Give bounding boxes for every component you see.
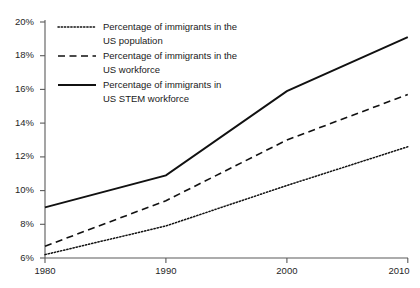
x-tick-label-2000: 2000 (276, 265, 297, 276)
x-axis-ticks (45, 258, 408, 263)
legend-label-us-workforce-line2: US workforce (103, 64, 160, 75)
legend-label-us-stem-workforce-line2: US STEM workforce (103, 93, 189, 104)
chart-canvas: 20% 18% 16% 14% 12% 10% 8% 6% (0, 0, 420, 288)
y-tick-label-20: 20% (15, 16, 35, 27)
y-tick-label-12: 12% (15, 150, 35, 161)
series-line-us-workforce (45, 94, 408, 246)
series-lines (45, 37, 408, 254)
legend-label-us-population-line2: US population (103, 35, 163, 46)
y-tick-label-10: 10% (15, 184, 35, 195)
legend-label-us-population-line1: Percentage of immigrants in the (103, 21, 237, 32)
legend-label-us-stem-workforce-line1: Percentage of immigrants in (103, 79, 221, 90)
x-tick-label-2010: 2010 (388, 265, 409, 276)
line-chart: 20% 18% 16% 14% 12% 10% 8% 6% (0, 0, 420, 288)
series-line-us-stem-workforce (45, 37, 408, 207)
y-tick-label-6: 6% (20, 252, 34, 263)
y-axis-ticks (40, 22, 45, 258)
y-tick-label-18: 18% (15, 49, 35, 60)
legend-label-us-workforce-line1: Percentage of immigrants in the (103, 50, 237, 61)
x-axis-tick-labels: 1980 1990 2000 2010 (34, 265, 409, 276)
series-line-us-population (45, 147, 408, 255)
y-axis-tick-labels: 20% 18% 16% 14% 12% 10% 8% 6% (15, 16, 35, 263)
y-tick-label-16: 16% (15, 83, 35, 94)
y-tick-label-8: 8% (20, 218, 34, 229)
chart-legend: Percentage of immigrants in the US popul… (58, 21, 237, 104)
x-tick-label-1980: 1980 (34, 265, 55, 276)
x-tick-label-1990: 1990 (155, 265, 176, 276)
y-tick-label-14: 14% (15, 117, 35, 128)
